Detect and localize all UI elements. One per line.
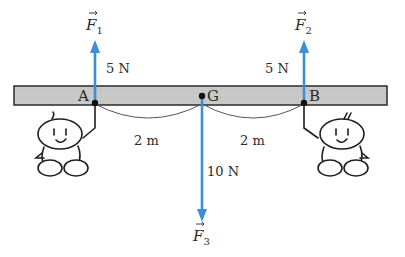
left-person-figure bbox=[36, 104, 95, 176]
right-person-figure bbox=[304, 104, 368, 176]
point-b-label: B bbox=[309, 87, 320, 105]
point-a-label: A bbox=[77, 87, 89, 105]
force-arrow-f3 bbox=[197, 96, 207, 222]
svg-text:F1: F1 bbox=[85, 16, 103, 36]
distance-g-b-label: 2 m bbox=[240, 133, 265, 148]
beam-force-diagram: A G B 5 N 5 N 10 N 2 m 2 m F1 F2 F3 bbox=[0, 0, 405, 257]
point-a-marker bbox=[92, 100, 98, 106]
point-g-label: G bbox=[207, 87, 219, 105]
force-f3-magnitude: 10 N bbox=[207, 164, 239, 179]
force-f3-symbol: F3 bbox=[192, 222, 210, 247]
force-f1-magnitude: 5 N bbox=[106, 61, 130, 76]
distance-arc-g-b bbox=[202, 104, 304, 118]
point-b-marker bbox=[301, 100, 307, 106]
point-g-marker bbox=[199, 93, 205, 99]
force-f1-symbol: F1 bbox=[85, 11, 103, 36]
svg-text:F2: F2 bbox=[294, 16, 312, 36]
distance-arc-a-g bbox=[95, 104, 202, 118]
svg-text:F3: F3 bbox=[192, 227, 210, 247]
force-f2-symbol: F2 bbox=[294, 11, 312, 36]
distance-a-g-label: 2 m bbox=[134, 133, 159, 148]
force-f2-magnitude: 5 N bbox=[265, 61, 289, 76]
